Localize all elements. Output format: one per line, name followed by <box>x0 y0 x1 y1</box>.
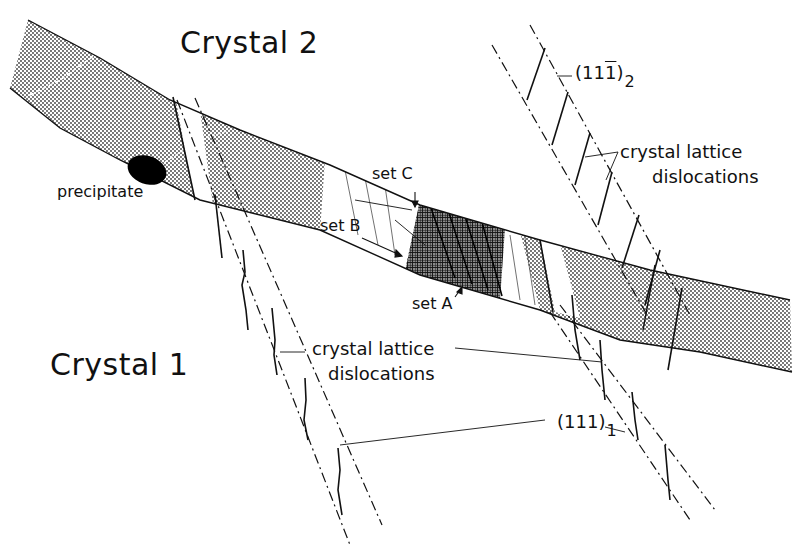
crystal1-label: Crystal 1 <box>50 350 188 380</box>
dislocations-lower-label-line2: dislocations <box>328 365 435 383</box>
plane2-label: (111)2 <box>575 64 635 82</box>
set-c-label: set C <box>372 166 413 182</box>
dislocations-lower-label-line1: crystal lattice <box>312 340 434 358</box>
set-a-label: set A <box>412 296 452 312</box>
crystal2-label: Crystal 2 <box>180 28 318 58</box>
set-b-label: set B <box>320 218 361 234</box>
precipitate-label: precipitate <box>57 184 143 200</box>
dislocations-upper-label-line1: crystal lattice <box>620 143 742 161</box>
grain-boundary-diagram <box>0 0 804 558</box>
plane1-label: (111)1 <box>557 413 617 431</box>
dislocations-upper-label-line2: dislocations <box>652 168 759 186</box>
